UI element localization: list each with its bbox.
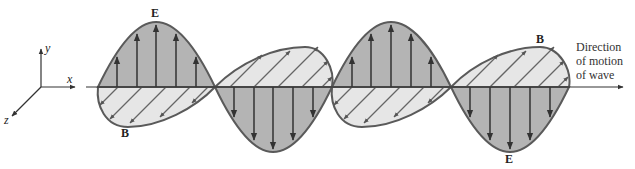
svg-text:of motion: of motion [576, 54, 623, 68]
label-E-top: E [151, 6, 159, 20]
svg-text:Direction: Direction [576, 40, 621, 54]
y-axis-label: y [44, 41, 51, 55]
z-axis-arrow [12, 87, 41, 116]
direction-caption: Direction of motion of wave [576, 40, 623, 82]
label-B-top: B [536, 32, 544, 46]
coordinate-axes: y x z [3, 41, 75, 127]
label-E-bottom: E [505, 152, 513, 166]
x-axis-label: x [66, 72, 73, 86]
svg-text:of wave: of wave [576, 68, 614, 82]
z-axis-label: z [3, 113, 9, 127]
label-B-bottom: B [121, 126, 129, 140]
em-wave-diagram: y x z [0, 0, 635, 169]
